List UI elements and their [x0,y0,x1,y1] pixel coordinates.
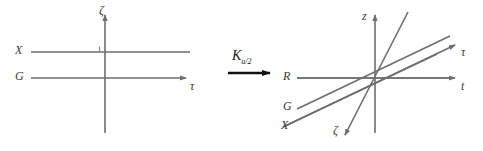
operator-symbol: K [232,48,241,63]
axis-label-tau-left: τ [190,80,194,92]
operator-label: Ku/2 [232,49,252,66]
left-panel-graphics [31,15,190,133]
axis-label-zeta-left: ζ [99,4,104,16]
right-panel-graphics [283,12,455,135]
figure-canvas [0,0,483,151]
line-label-X-right: X [281,119,288,131]
axis-zeta-prime-line [345,12,408,135]
line-X-right [283,54,437,127]
axis-label-t-right: t [461,80,464,92]
operator-subscript: u/2 [241,57,251,66]
line-label-R-right: R [283,70,290,82]
figure-container: ζ τ X G Ku/2 z t τ ζ R G X [0,0,483,151]
axis-label-z-right: z [362,10,367,22]
line-label-G-left: G [15,70,24,82]
line-G-right [297,36,450,109]
axis-label-tau-prime-right: τ [461,46,465,58]
line-label-G-right: G [283,100,292,112]
line-label-X-left: X [15,44,22,56]
axis-label-zeta-prime-right: ζ [333,124,338,136]
